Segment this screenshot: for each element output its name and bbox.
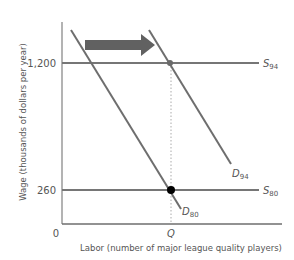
y-tick-1200: 1,200 [27, 58, 56, 69]
x-tick-q: Q [167, 228, 175, 239]
x-tick-0: 0 [53, 228, 59, 239]
d94-line [149, 30, 231, 164]
s80-label: S80 [263, 185, 278, 198]
shift-arrow-icon [85, 34, 155, 56]
s94-label: S94 [263, 58, 279, 71]
d94-label: D94 [232, 168, 249, 181]
d80-label: D80 [182, 206, 199, 219]
equilibrium-point-80 [167, 186, 175, 194]
equilibrium-point-94 [167, 60, 173, 66]
y-axis-title: Wage (thousands of dollars per year) [18, 43, 28, 201]
y-tick-260: 260 [37, 185, 56, 196]
x-axis-title: Labor (number of major league quality pl… [80, 243, 282, 253]
labor-market-chart: 1,200 260 0 Q S94 S80 D94 D80 Wage (thou… [0, 0, 294, 260]
